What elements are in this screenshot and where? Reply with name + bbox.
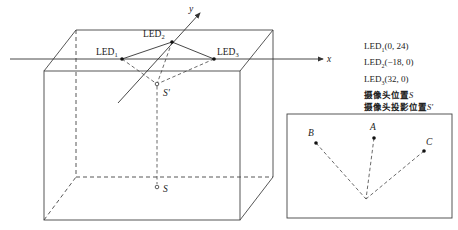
- y-axis-label: y: [188, 4, 194, 14]
- legend-item-led2: LED2(−18, 0): [364, 56, 433, 72]
- led2-point: [170, 40, 174, 44]
- x-axis-label: x: [326, 54, 332, 64]
- legend-item-led3: LED3(32, 0): [364, 73, 433, 89]
- led3-point: [212, 57, 216, 61]
- point-a-label: A: [369, 122, 376, 132]
- camera-projection-point: [155, 82, 159, 86]
- projection-lines: [122, 42, 214, 184]
- legend-item-led1: LED1(0, 24): [364, 40, 433, 56]
- legend-item-camera: 摄像头位置S: [364, 89, 433, 102]
- point-c: [422, 149, 426, 153]
- legend-item-camera-projection: 摄像头投影位置S': [364, 101, 433, 114]
- box-top-left-edge: [44, 30, 76, 71]
- camera-label: S: [163, 184, 168, 194]
- point-b: [314, 141, 318, 145]
- led3-label: LED3: [217, 47, 239, 58]
- box-top-right-edge: [240, 30, 273, 71]
- legend: LED1(0, 24) LED2(−18, 0) LED3(32, 0) 摄像头…: [364, 40, 433, 114]
- point-b-label: B: [308, 128, 314, 138]
- line-b: [316, 143, 366, 199]
- line-c: [366, 151, 424, 199]
- led1-point: [120, 57, 124, 61]
- led-triangle: [122, 42, 214, 59]
- box-front-face: [44, 71, 240, 220]
- camera-point: [155, 185, 159, 189]
- camera-projection-label: S': [163, 88, 171, 98]
- point-c-label: C: [426, 137, 433, 147]
- line-a: [366, 138, 374, 199]
- image-plane-panel: A B C: [287, 114, 452, 218]
- led1-label: LED1: [96, 47, 118, 58]
- diagram-canvas: x y LED1 LED2 LED3 S' S A B C: [0, 0, 458, 230]
- box-bottom-right-edge: [240, 177, 273, 220]
- point-a: [372, 136, 376, 140]
- led2-label: LED2: [143, 29, 165, 40]
- box-bottom-left-hidden-edge: [44, 177, 76, 220]
- y-axis: [118, 13, 200, 103]
